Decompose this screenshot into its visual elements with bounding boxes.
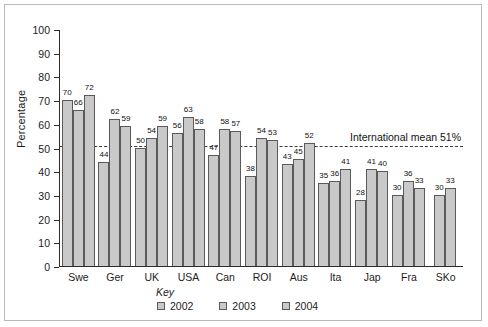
bar: 30	[392, 195, 403, 266]
bar-group-bars: 434552	[282, 30, 315, 266]
x-axis-label-swe: Swe	[60, 271, 97, 283]
y-axis-tick	[54, 125, 59, 126]
y-axis-tick-label: 10	[38, 238, 50, 249]
x-axis-label-ger: Ger	[97, 271, 134, 283]
bar: 57	[230, 131, 241, 266]
bar: 41	[366, 169, 377, 266]
bar-group: 446259	[97, 30, 134, 266]
legend-swatch-icon	[282, 302, 290, 310]
chart-frame: Percentage 0102030405060708090100 Intern…	[4, 4, 482, 321]
y-axis-tick	[54, 101, 59, 102]
x-axis-label-roi: ROI	[244, 271, 281, 283]
y-axis-tick-label: 0	[44, 262, 50, 273]
bar-group-bars: 385453	[245, 30, 278, 266]
y-axis-tick	[54, 243, 59, 244]
plot-area: 0102030405060708090100 International mea…	[59, 30, 463, 267]
bar: 40	[377, 171, 388, 266]
bar-value-label: 53	[268, 129, 277, 137]
bar-group-bars: 706672	[62, 30, 95, 266]
bar: 36	[329, 181, 340, 266]
bar-group-bars: 284140	[355, 30, 388, 266]
y-axis-tick-label: 70	[38, 96, 50, 107]
y-axis-tick-label: 60	[38, 120, 50, 131]
y-axis-tick	[54, 196, 59, 197]
bar-group: 3033	[426, 30, 463, 266]
x-axis-label-usa: USA	[170, 271, 207, 283]
bar-value-label: 36	[330, 170, 339, 178]
bar-value-label: 28	[356, 189, 365, 197]
bar: 59	[120, 126, 131, 266]
bar-groups: 7066724462595054595663584758573854534345…	[60, 30, 463, 266]
legend-swatch-icon	[219, 302, 227, 310]
bar-value-label: 38	[246, 165, 255, 173]
legend-item-2002: 2002	[157, 301, 193, 312]
bar-value-label: 33	[446, 177, 455, 185]
bar-value-label: 57	[231, 120, 240, 128]
y-axis-tick	[54, 77, 59, 78]
bar-value-label: 63	[184, 106, 193, 114]
bar-group-bars: 303633	[392, 30, 425, 266]
bar: 53	[267, 140, 278, 266]
bar: 59	[157, 126, 168, 266]
legend: 200220032004	[157, 301, 318, 312]
bar-value-label: 54	[257, 127, 266, 135]
x-axis-labels: SweGerUKUSACanROIAusItaJapFraSKo	[60, 271, 464, 283]
y-axis-tick	[54, 172, 59, 173]
x-axis-label-aus: Aus	[280, 271, 317, 283]
x-axis-label-uk: UK	[133, 271, 170, 283]
bar-value-label: 47	[209, 144, 218, 152]
bar-value-label: 43	[283, 153, 292, 161]
legend-label: 2003	[232, 301, 255, 312]
bar-group: 434552	[280, 30, 317, 266]
bar: 58	[194, 129, 205, 266]
bar: 63	[183, 117, 194, 266]
bar-group-bars: 475857	[208, 30, 241, 266]
bar-value-label: 45	[294, 148, 303, 156]
y-axis-title: Percentage	[15, 90, 27, 148]
bar: 33	[414, 188, 425, 266]
y-axis-tick-label: 20	[38, 214, 50, 225]
bar: 66	[73, 110, 84, 266]
y-axis-tick-label: 100	[32, 25, 50, 36]
bar-group-bars: 353641	[318, 30, 351, 266]
legend-label: 2004	[295, 301, 318, 312]
y-axis-tick-label: 30	[38, 191, 50, 202]
legend-swatch-icon	[157, 302, 165, 310]
bar-group: 385453	[243, 30, 280, 266]
bar-group: 303633	[390, 30, 427, 266]
bar: 62	[109, 119, 120, 266]
legend-item-2004: 2004	[282, 301, 318, 312]
legend-title: Key	[156, 286, 174, 298]
bar: 47	[208, 155, 219, 266]
bar-value-label: 33	[415, 177, 424, 185]
bar-value-label: 44	[100, 151, 109, 159]
legend-item-2003: 2003	[219, 301, 255, 312]
bar-group-bars: 505459	[135, 30, 168, 266]
bar-group-bars: 566358	[172, 30, 205, 266]
y-axis-tick-label: 90	[38, 48, 50, 59]
bar-value-label: 58	[195, 118, 204, 126]
bar: 33	[445, 188, 456, 266]
bar: 44	[98, 162, 109, 266]
bar: 72	[84, 95, 95, 266]
bar-group: 353641	[316, 30, 353, 266]
bar-value-label: 54	[147, 127, 156, 135]
bar-value-label: 30	[393, 184, 402, 192]
bar-group-bars: 446259	[98, 30, 131, 266]
bar-group-bars: 3033	[434, 30, 456, 266]
x-axis-label-sko: SKo	[427, 271, 464, 283]
bar-group: 706672	[60, 30, 97, 266]
y-axis-tick	[54, 220, 59, 221]
bar: 58	[219, 129, 230, 266]
bar-value-label: 56	[173, 122, 182, 130]
bar-value-label: 72	[85, 84, 94, 92]
bar: 30	[434, 195, 445, 266]
bar-value-label: 70	[63, 89, 72, 97]
y-axis-tick	[54, 149, 59, 150]
bar-value-label: 66	[74, 99, 83, 107]
bar: 45	[293, 159, 304, 266]
x-axis-line	[59, 266, 463, 267]
bar-value-label: 41	[341, 158, 350, 166]
y-axis-tick-label: 40	[38, 167, 50, 178]
bar: 35	[318, 183, 329, 266]
